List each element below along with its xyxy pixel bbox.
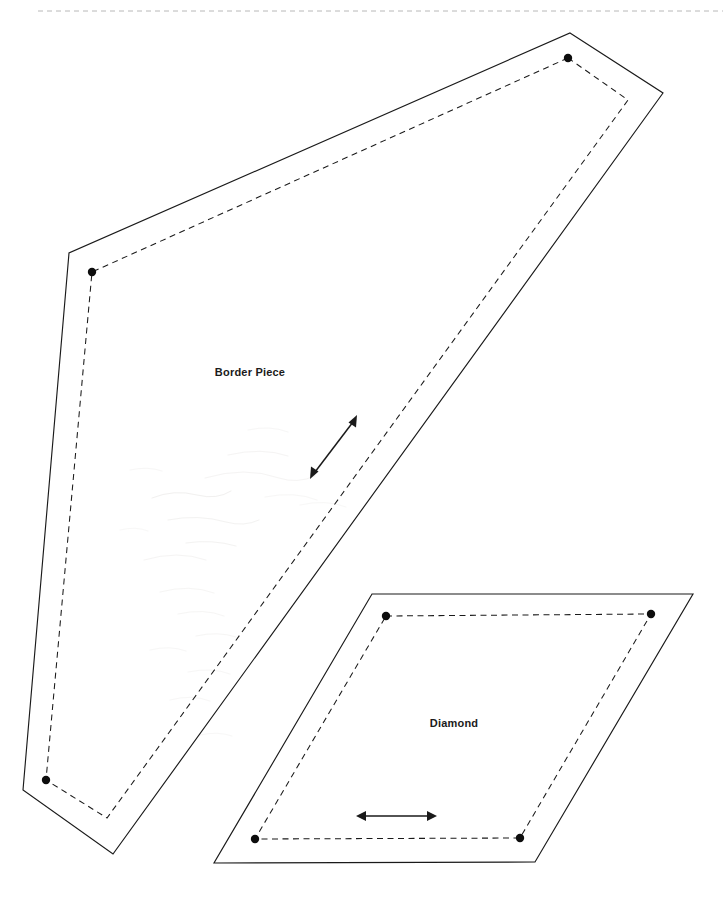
diamond-grain-arrow <box>356 811 437 821</box>
diamond-seam-dot-top-right[interactable] <box>647 610 655 618</box>
diamond-seam-dot-bottom-left[interactable] <box>251 835 259 843</box>
border-piece-seam-dot-bottom-left[interactable] <box>42 776 50 784</box>
piece-diamond[interactable]: Diamond <box>214 594 693 863</box>
diamond-seam-dot-top-left[interactable] <box>382 612 390 620</box>
diamond-seam-dot-bottom-right[interactable] <box>516 834 524 842</box>
pattern-sheet: Border Piece Diamond <box>0 0 723 898</box>
border-piece-label: Border Piece <box>215 366 285 378</box>
diamond-piece-label: Diamond <box>430 717 478 729</box>
pattern-drawing-canvas: Border Piece Diamond <box>0 0 723 898</box>
border-piece-grain-arrow <box>310 415 357 479</box>
border-piece-cut-line[interactable] <box>23 33 663 854</box>
piece-border-piece[interactable]: Border Piece <box>23 33 663 854</box>
border-piece-seam-dot-left[interactable] <box>88 268 96 276</box>
border-piece-seam-dot-top[interactable] <box>564 54 572 62</box>
border-piece-seam-line[interactable] <box>46 58 628 818</box>
